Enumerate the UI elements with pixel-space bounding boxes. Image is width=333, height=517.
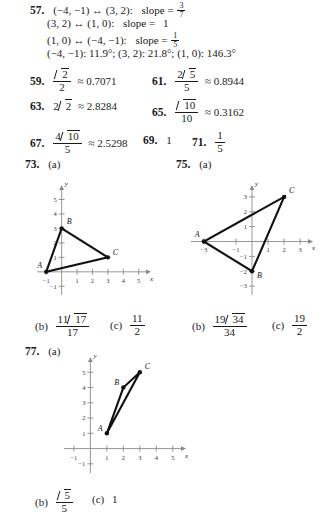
svg-text:y: y — [64, 180, 69, 188]
svg-text:B: B — [67, 217, 72, 226]
fraction-denominator: 10 — [175, 113, 198, 125]
svg-text:C: C — [289, 186, 295, 195]
problem-65-number: 65. — [152, 106, 166, 118]
svg-text:2: 2 — [122, 454, 125, 461]
radical-icon: 10 — [61, 130, 80, 143]
problem-73-part-c-fraction: 11 2 — [130, 313, 145, 337]
problem-77-part-c-label: (c) — [92, 493, 104, 505]
svg-text:5: 5 — [82, 369, 85, 376]
radicand: 10 — [67, 130, 80, 143]
svg-text:x: x — [311, 244, 316, 252]
svg-text:y: y — [254, 180, 259, 188]
fraction-numerator: 11 — [130, 313, 145, 326]
problem-73-part-b: (b) 1117 17 — [35, 313, 90, 338]
svg-text:−1: −1 — [43, 277, 50, 284]
problem-75-part-c-label: (c) — [272, 319, 284, 331]
svg-text:x: x — [184, 452, 189, 460]
problem-69-number: 69. — [143, 134, 157, 146]
problem-75-part-c-fraction: 19 2 — [292, 313, 307, 337]
problem-73-plot: xy−112345−112345ABC — [28, 176, 160, 304]
problem-63: 63. 22 ≈ 2.8284 — [30, 99, 120, 112]
problem-75-part-b: (b) 1934 34 — [192, 313, 248, 338]
svg-text:3: 3 — [244, 193, 247, 200]
radical-icon: 34 — [226, 313, 245, 326]
problem-73-part-b-label: (b) — [35, 320, 48, 332]
radicand: 2 — [65, 99, 73, 112]
svg-text:−1: −1 — [70, 454, 77, 461]
problem-59-fraction: 2 2 — [53, 68, 71, 93]
problem-75-number: 75. — [176, 158, 190, 170]
problem-77-plot: xy−112345−112345ABC — [55, 348, 195, 482]
svg-text:A: A — [97, 424, 103, 433]
fraction-numerator: 1 — [215, 130, 225, 143]
problem-63-number: 63. — [30, 100, 44, 112]
problem-61-approx: ≈ 0.8944 — [205, 75, 244, 87]
svg-text:1: 1 — [82, 430, 85, 437]
problem-73-header: 73. (a) — [25, 158, 60, 170]
problem-57-pair-1: (−4, −1) ↔ (3, 2): — [53, 4, 133, 16]
svg-text:C: C — [145, 362, 151, 371]
radical-icon: 2 — [55, 68, 69, 81]
radicand: 10 — [183, 99, 196, 112]
fraction-denominator: 34 — [213, 327, 247, 339]
svg-text:−1: −1 — [240, 253, 247, 260]
problem-71-number: 71. — [192, 136, 206, 148]
problem-69: 69. 1 — [143, 134, 172, 146]
fraction-numerator: 19 — [292, 313, 307, 326]
problem-61: 61. 25 5 ≈ 0.8944 — [152, 68, 247, 93]
problem-65-approx: ≈ 0.3162 — [205, 106, 244, 118]
fraction-denominator: 17 — [56, 327, 90, 339]
problem-71-fraction: 1 5 — [215, 130, 225, 154]
problem-69-value: 1 — [166, 134, 172, 146]
fraction-denominator: 2 — [292, 326, 307, 338]
radical-icon: 5 — [58, 489, 72, 502]
problem-57-pair-3: (1, 0) ↔ (−4, −1): — [47, 34, 127, 46]
problem-73-part-c-label: (c) — [110, 319, 122, 331]
fraction-denominator: 2 — [130, 326, 145, 338]
svg-text:2: 2 — [244, 208, 247, 215]
svg-text:1: 1 — [266, 246, 269, 253]
problem-57-slope-label-1: slope = — [142, 4, 174, 16]
svg-text:C: C — [113, 248, 119, 257]
problem-67-approx: ≈ 2.5298 — [88, 137, 127, 149]
problem-75-part-b-label: (b) — [192, 320, 205, 332]
problem-57-pair-2: (3, 2) ↔ (1, 0): — [47, 17, 114, 29]
problem-57-number: 57. — [30, 4, 44, 16]
svg-text:A: A — [194, 230, 200, 239]
problem-63-approx: ≈ 2.8284 — [78, 100, 117, 112]
problem-75-plot: xy−3−1123−3−2−1123ABC — [182, 176, 322, 304]
problem-77-part-b-fraction: 5 5 — [56, 489, 74, 514]
problem-75-header: 75. (a) — [176, 158, 211, 170]
fraction-numerator: 410 — [53, 130, 82, 144]
problem-59-approx: ≈ 0.7071 — [77, 75, 116, 87]
fraction-denominator: 7 — [177, 11, 185, 19]
problem-73-number: 73. — [25, 158, 39, 170]
radicand: 2 — [61, 68, 69, 81]
radical-icon: 2 — [59, 99, 73, 112]
problem-65-fraction: 10 10 — [175, 99, 198, 124]
svg-text:1: 1 — [105, 454, 108, 461]
problem-75-part-b-fraction: 1934 34 — [213, 313, 247, 338]
problem-65: 65. 10 10 ≈ 0.3162 — [152, 99, 247, 124]
problem-75-part-a-label: (a) — [199, 158, 211, 170]
svg-text:5: 5 — [53, 196, 56, 203]
problem-67-fraction: 410 5 — [53, 130, 82, 155]
problem-57-slope-label-3: slope = — [135, 34, 167, 46]
svg-text:4: 4 — [155, 454, 159, 461]
problem-57-slope-value-2: 1 — [163, 17, 169, 29]
problem-77-part-c-value: 1 — [112, 493, 118, 505]
problem-61-number: 61. — [152, 75, 166, 87]
svg-text:3: 3 — [53, 225, 56, 232]
radical-icon: 10 — [177, 99, 196, 112]
fraction-denominator: 2 — [53, 82, 71, 94]
radical-icon: 17 — [68, 313, 87, 326]
svg-text:3: 3 — [299, 246, 302, 253]
svg-text:2: 2 — [282, 246, 285, 253]
fraction-denominator: 5 — [175, 82, 198, 94]
radicand: 17 — [74, 313, 87, 326]
svg-text:4: 4 — [53, 210, 57, 217]
problem-77-part-b-label: (b) — [35, 496, 48, 508]
problem-73-part-a-label: (a) — [48, 158, 60, 170]
svg-text:3: 3 — [106, 277, 109, 284]
problem-61-fraction: 25 5 — [175, 68, 198, 93]
